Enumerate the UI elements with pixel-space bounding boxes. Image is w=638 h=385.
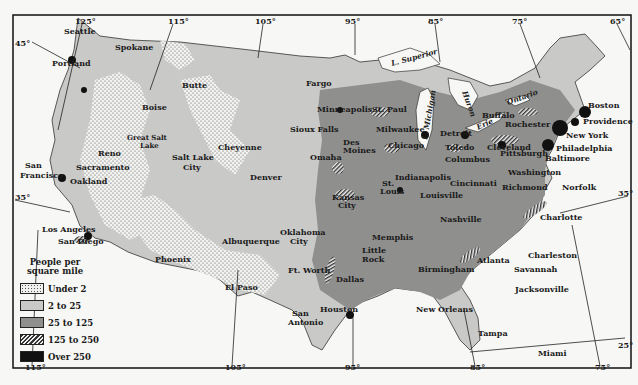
svg-text:Los Angeles: Los Angeles <box>42 224 96 234</box>
legend-item-2-to-25: 2 to 25 <box>20 297 130 314</box>
svg-text:St. Paul: St. Paul <box>372 104 407 114</box>
svg-text:25°: 25° <box>618 340 633 350</box>
svg-text:Pittsburgh: Pittsburgh <box>500 148 548 158</box>
svg-text:El Paso: El Paso <box>225 282 258 292</box>
svg-text:Tampa: Tampa <box>478 328 508 338</box>
svg-text:Indianapolis: Indianapolis <box>395 172 451 182</box>
svg-text:85°: 85° <box>428 16 443 26</box>
legend-label: 2 to 25 <box>48 301 81 311</box>
svg-text:Albuquerque: Albuquerque <box>221 236 280 246</box>
svg-text:95°: 95° <box>345 16 360 26</box>
svg-text:Nashville: Nashville <box>440 214 482 224</box>
svg-text:75°: 75° <box>512 16 527 26</box>
svg-text:Milwaukee: Milwaukee <box>376 124 425 134</box>
svg-text:Richmond: Richmond <box>502 182 548 192</box>
svg-text:Omaha: Omaha <box>310 152 342 162</box>
svg-text:75°: 75° <box>595 362 610 372</box>
svg-text:Boise: Boise <box>142 102 167 112</box>
svg-text:Seattle: Seattle <box>64 26 96 36</box>
svg-text:Cincinnati: Cincinnati <box>450 178 497 188</box>
medium-gray-swatch-icon <box>20 317 44 328</box>
legend-item-25-to-125: 25 to 125 <box>20 314 130 331</box>
legend-label: Over 250 <box>48 352 91 362</box>
legend-label: 25 to 125 <box>48 318 93 328</box>
svg-text:125°: 125° <box>75 16 96 26</box>
svg-text:Atlanta: Atlanta <box>476 255 510 265</box>
svg-text:Providence: Providence <box>583 116 633 126</box>
svg-text:Boston: Boston <box>588 100 620 110</box>
svg-text:Norfolk: Norfolk <box>562 182 597 192</box>
svg-text:Sioux Falls: Sioux Falls <box>290 124 339 134</box>
svg-text:Toledo: Toledo <box>445 142 475 152</box>
svg-text:San: San <box>25 160 42 170</box>
legend-item-125-to-250: 125 to 250 <box>20 331 130 348</box>
svg-text:Miami: Miami <box>538 348 567 358</box>
svg-text:Butte: Butte <box>182 80 207 90</box>
svg-text:Moines: Moines <box>343 145 376 155</box>
legend-item-over-250: Over 250 <box>20 348 130 365</box>
black-swatch-icon <box>20 351 44 362</box>
svg-text:Salt Lake: Salt Lake <box>172 152 214 162</box>
svg-text:Spokane: Spokane <box>115 42 153 52</box>
svg-text:65°: 65° <box>610 16 625 26</box>
svg-text:Jacksonville: Jacksonville <box>514 284 569 294</box>
svg-text:Louisville: Louisville <box>420 190 463 200</box>
svg-text:45°: 45° <box>15 38 30 48</box>
svg-text:Philadelphia: Philadelphia <box>556 143 612 153</box>
svg-text:Dallas: Dallas <box>336 274 364 284</box>
svg-text:Rochester: Rochester <box>505 119 551 129</box>
svg-text:Memphis: Memphis <box>372 232 414 242</box>
svg-text:Phoenix: Phoenix <box>155 254 191 264</box>
svg-text:Charlotte: Charlotte <box>540 212 582 222</box>
svg-text:City: City <box>338 200 356 210</box>
svg-text:Minneapolis: Minneapolis <box>317 104 373 114</box>
svg-text:Lake: Lake <box>140 141 159 150</box>
svg-text:Louis: Louis <box>380 186 405 196</box>
svg-text:Denver: Denver <box>250 172 283 182</box>
legend-label: 125 to 250 <box>48 335 99 345</box>
hatched-swatch-icon <box>20 334 44 345</box>
svg-text:Chicago: Chicago <box>388 140 425 150</box>
svg-text:105°: 105° <box>225 362 246 372</box>
svg-text:Antonio: Antonio <box>287 317 324 327</box>
svg-text:Detroit: Detroit <box>440 128 472 138</box>
legend: People per square mile Under 2 2 to 25 2… <box>20 258 130 365</box>
dotted-swatch-icon <box>20 283 44 294</box>
svg-text:115°: 115° <box>168 16 189 26</box>
svg-text:Charleston: Charleston <box>528 250 577 260</box>
svg-text:Oakland: Oakland <box>70 176 108 186</box>
svg-text:Portland: Portland <box>52 58 91 68</box>
svg-text:Rock: Rock <box>362 254 385 264</box>
legend-item-under-2: Under 2 <box>20 280 130 297</box>
svg-text:105°: 105° <box>255 16 276 26</box>
svg-text:Sacramento: Sacramento <box>76 162 130 172</box>
svg-text:City: City <box>290 236 308 246</box>
svg-text:Cheyenne: Cheyenne <box>218 142 262 152</box>
svg-text:Washington: Washington <box>507 167 561 177</box>
svg-text:Francisco: Francisco <box>20 170 64 180</box>
svg-text:35°: 35° <box>15 192 30 202</box>
svg-text:New York: New York <box>566 130 609 140</box>
svg-text:Birmingham: Birmingham <box>418 264 475 274</box>
svg-text:New Orleans: New Orleans <box>416 304 473 314</box>
svg-text:Baltimore: Baltimore <box>545 153 590 163</box>
svg-text:Fargo: Fargo <box>306 78 332 88</box>
svg-text:Ft. Worth: Ft. Worth <box>288 265 331 275</box>
svg-text:Columbus: Columbus <box>445 154 490 164</box>
svg-text:Reno: Reno <box>98 148 122 158</box>
svg-text:85°: 85° <box>470 362 485 372</box>
svg-text:Savannah: Savannah <box>514 264 558 274</box>
legend-title: People per square mile <box>20 258 90 276</box>
light-gray-swatch-icon <box>20 300 44 311</box>
svg-text:35°: 35° <box>618 188 633 198</box>
legend-label: Under 2 <box>48 284 86 294</box>
svg-text:95°: 95° <box>345 362 360 372</box>
svg-text:City: City <box>183 162 201 172</box>
svg-text:San Diego: San Diego <box>58 236 104 246</box>
svg-text:Houston: Houston <box>320 304 358 314</box>
